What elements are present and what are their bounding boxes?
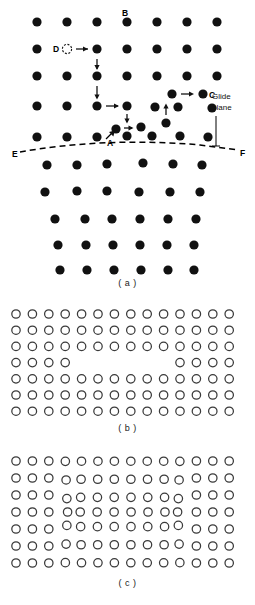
lattice-row (12, 358, 234, 366)
lattice-row (12, 508, 234, 516)
atom-filled (134, 187, 143, 196)
atom-open (143, 391, 151, 399)
atom-open (45, 310, 53, 318)
atom-filled (92, 132, 101, 141)
atom-open (12, 391, 20, 399)
lattice-row (12, 375, 234, 383)
atom-open (225, 559, 233, 567)
atom-open (110, 391, 118, 399)
atom-open (62, 540, 70, 548)
atom-open (176, 407, 184, 415)
atom-open (160, 541, 168, 549)
atom-open (127, 342, 135, 350)
lattice-row (12, 474, 234, 484)
atom-open (175, 540, 183, 548)
atom-open (127, 522, 135, 530)
glide-plane-label-line2: plane (212, 103, 232, 112)
lattice-lower (40, 158, 206, 274)
atom-filled (92, 17, 101, 26)
label-B: B (122, 8, 128, 18)
atom-filled (182, 71, 191, 80)
label-E: E (12, 149, 18, 159)
atom-open (12, 407, 20, 415)
atom-filled (50, 214, 59, 223)
atom-open (28, 310, 36, 318)
atom-open (110, 508, 118, 516)
atom-open (45, 391, 53, 399)
atom-open (225, 542, 233, 550)
atom-open (61, 407, 69, 415)
atom-open (45, 326, 53, 334)
atom-filled (92, 101, 101, 110)
atom-filled (82, 265, 91, 274)
atom-open (225, 326, 233, 334)
atom-open (12, 457, 20, 465)
lattice-row (40, 186, 204, 196)
lattice-row (12, 558, 234, 567)
atom-open (209, 457, 217, 465)
atom-filled (80, 214, 89, 223)
caption-b: ( b ) (0, 423, 255, 433)
atom-open (76, 522, 84, 530)
atom-open (127, 475, 135, 483)
atom-open (62, 476, 70, 484)
atom-open (159, 375, 167, 383)
lattice-row (42, 158, 206, 169)
lattice-row (111, 118, 170, 133)
atom-open (209, 391, 217, 399)
atom-open (45, 375, 53, 383)
atom-filled (203, 132, 212, 141)
atom-open (61, 326, 69, 334)
atom-open (61, 391, 69, 399)
arrow-up-4 (163, 104, 168, 116)
atom-open (176, 326, 184, 334)
atom-filled (108, 240, 117, 249)
atom-open (61, 310, 69, 318)
atom-filled (62, 71, 71, 80)
vacancy-circle-D (62, 44, 71, 53)
atom-open (94, 310, 102, 318)
atom-open (12, 326, 20, 334)
atom-filled (189, 265, 198, 274)
atom-open (63, 521, 71, 529)
atom-open (143, 559, 151, 567)
arrow-down-3 (124, 114, 129, 124)
atom-open (45, 508, 53, 516)
atom-filled (161, 118, 170, 127)
atom-filled (168, 159, 177, 168)
atom-open (144, 522, 152, 530)
atom-open (143, 475, 151, 483)
lattice-row (12, 407, 234, 415)
atom-open (12, 474, 20, 482)
atom-filled (32, 101, 41, 110)
atom-filled (212, 17, 221, 26)
lattice-row (12, 521, 234, 533)
atom-open (12, 542, 20, 550)
atom-filled (53, 240, 62, 249)
atom-filled (136, 265, 145, 274)
atom-open (176, 310, 184, 318)
caption-a: ( a ) (0, 278, 255, 288)
atom-open (61, 558, 69, 566)
atom-filled (92, 44, 101, 53)
atom-filled (122, 101, 131, 110)
atom-filled (152, 44, 161, 53)
atom-filled (165, 187, 174, 196)
atom-filled (109, 265, 118, 274)
atom-open (225, 525, 233, 533)
atom-open (93, 522, 101, 530)
atom-open (110, 326, 118, 334)
atom-open (93, 541, 101, 549)
atom-open (192, 310, 200, 318)
atom-open (127, 310, 135, 318)
atom-open (127, 559, 135, 567)
atom-open (93, 493, 101, 501)
atom-open (110, 493, 118, 501)
atom-filled (102, 186, 111, 195)
atom-open (110, 407, 118, 415)
atom-open (63, 494, 71, 502)
lattice-row (12, 310, 234, 318)
atom-open (93, 508, 101, 516)
atom-open (144, 493, 152, 501)
lattice-row (12, 326, 234, 334)
